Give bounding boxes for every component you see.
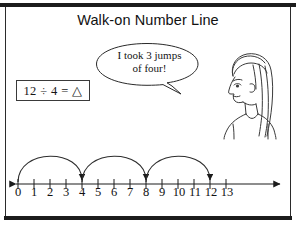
tick-label: 0	[15, 185, 21, 200]
worksheet-page: Walk-on Number Line 12 ÷ 4 = △ I took 3 …	[0, 0, 296, 241]
tick-label: 13	[221, 185, 234, 200]
tick-label: 11	[189, 185, 201, 200]
equation-box: 12 ÷ 4 = △	[16, 80, 90, 101]
girl-figure	[203, 44, 289, 140]
page-title: Walk-on Number Line	[0, 12, 296, 28]
speech-bubble-text: I took 3 jumps of four!	[99, 49, 200, 75]
tick-label: 9	[159, 185, 165, 200]
number-line-tick-labels: 0 1 2 3 4 5 6 7 8 9 10 11 12 13	[6, 185, 290, 205]
speech-line-2: of four!	[99, 62, 200, 75]
border-top	[0, 3, 296, 7]
tick-label: 1	[31, 185, 37, 200]
tick-label: 2	[47, 185, 53, 200]
equation-text: 12 ÷ 4 = △	[23, 83, 82, 99]
tick-label: 12	[205, 185, 218, 200]
border-bottom	[4, 216, 292, 220]
tick-label: 5	[95, 185, 101, 200]
tick-label: 4	[79, 185, 85, 200]
tick-label: 10	[173, 185, 186, 200]
tick-label: 7	[127, 185, 133, 200]
border-right	[290, 7, 291, 216]
tick-label: 8	[143, 185, 149, 200]
tick-label: 3	[63, 185, 69, 200]
tick-label: 6	[111, 185, 117, 200]
speech-line-1: I took 3 jumps	[99, 49, 200, 62]
